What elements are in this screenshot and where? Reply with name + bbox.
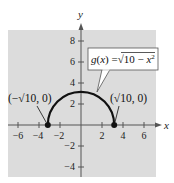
x-axis-label: x — [163, 119, 169, 131]
left-endpoint — [45, 122, 51, 128]
left-point-label: (−√10, 0) — [8, 92, 52, 105]
right-endpoint — [111, 122, 117, 128]
x-tick-label: −6 — [13, 130, 24, 141]
x-tick-label: 2 — [100, 130, 105, 141]
y-tick-label: 4 — [70, 77, 75, 88]
x-tick-label: 6 — [142, 130, 147, 141]
y-tick-label: −2 — [64, 140, 75, 151]
y-tick-label: −4 — [64, 161, 75, 172]
x-tick-label: −4 — [33, 130, 44, 141]
function-label: g(x) =√10 − x2 — [91, 53, 155, 66]
x-tick-label: 4 — [121, 130, 126, 141]
x-tick-label: −2 — [54, 130, 65, 141]
chart: x y −6 −4 −2 2 4 6 −4 −2 2 4 6 8 — [0, 0, 174, 183]
y-axis-arrow-icon — [79, 23, 84, 30]
y-tick-label: 6 — [70, 56, 75, 67]
x-axis-arrow-icon — [155, 123, 162, 128]
y-axis-label: y — [77, 8, 83, 20]
y-tick-label: 2 — [70, 98, 75, 109]
right-point-label: (√10, 0) — [110, 92, 147, 105]
y-tick-label: 8 — [70, 35, 75, 46]
